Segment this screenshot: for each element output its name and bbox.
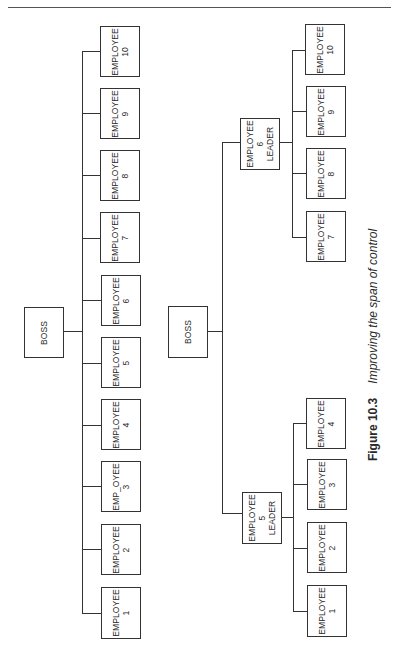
employee-label: EMPLOYEE: [110, 152, 120, 200]
employee-number: 2: [327, 524, 337, 572]
employee-label: EMPLOYEE: [316, 88, 326, 136]
employee-number: 4: [326, 400, 336, 448]
right-boss-label: BOSS: [183, 320, 193, 344]
employee-label: EMPLOYEE: [316, 400, 326, 448]
leader-number: 6: [255, 120, 265, 168]
leader-label: EMPLOYEE: [245, 120, 255, 168]
figure-number: Figure 10.3: [366, 398, 380, 461]
employee-label: EMPLOYEE: [110, 28, 120, 76]
leader-number: 5: [257, 494, 267, 542]
left-employee-2-box: EMPLOYEE2: [101, 524, 141, 575]
employee-number: 1: [327, 587, 337, 635]
left-branch-7: [82, 238, 101, 239]
employee-label: EMPLOYEE: [315, 26, 325, 74]
figure-title: Improving the span of control: [366, 229, 380, 384]
left-branch-2: [82, 549, 101, 550]
employee-number: 3: [327, 461, 337, 509]
employee-label: EMPLOYEE: [111, 401, 121, 449]
left-employee-5-box: EMPLOYEE5: [101, 337, 141, 388]
right-employee-7-box: EMPLOYEE7: [306, 211, 346, 262]
r-branch-2: [293, 548, 307, 549]
right-employee-8-box: EMPLOYEE8: [306, 148, 346, 199]
left-branch-10: [82, 51, 101, 52]
leader-label: EMPLOYEE: [247, 494, 257, 542]
left-employee-1-box: EMPLOYEE1: [101, 587, 141, 639]
left-employee-3-box: EMP_OYEE3: [101, 461, 141, 512]
employee-number: 6: [121, 277, 131, 325]
employee-number: 2: [121, 526, 131, 574]
employee-label: EMPLOYEE: [111, 589, 121, 637]
right-employee-1-box: EMPLOYEE1: [307, 585, 347, 637]
right-spine: [222, 142, 223, 514]
employee-number: 1: [121, 589, 131, 637]
employee-number: 10: [120, 28, 130, 76]
employee-number: 10: [325, 26, 335, 74]
left-employee-4-box: EMPLOYEE4: [101, 399, 141, 450]
left-boss-box: BOSS: [24, 307, 64, 358]
left-employee-9-box: EMPLOYEE9: [100, 88, 140, 139]
right-boss-box: BOSS: [168, 306, 208, 358]
r-branch-8: [292, 173, 307, 174]
employee-label: EMPLOYEE: [111, 277, 121, 325]
right-employee-2-box: EMPLOYEE2: [307, 522, 347, 573]
employee-label: EMPLOYEE: [317, 587, 327, 635]
leader-6-connector: [222, 142, 241, 143]
r-branch-7: [292, 237, 307, 238]
employee-number: 8: [326, 150, 336, 198]
employee-label: EMPLOYEE: [316, 150, 326, 198]
r-branch-3: [293, 484, 307, 485]
right-employee-9-box: EMPLOYEE9: [306, 86, 346, 137]
left-branch-6: [82, 300, 101, 301]
employee-number: 7: [326, 213, 336, 261]
leader-role: LEADER: [267, 494, 277, 542]
leader-6-box: EMPLOYEE6LEADER: [240, 118, 280, 170]
left-branch-5: [82, 363, 101, 364]
leader-5-connector: [222, 513, 243, 514]
header-rule: [8, 7, 391, 8]
left-branch-8: [82, 175, 101, 176]
right-boss-connector: [207, 331, 223, 332]
employee-number: 7: [120, 214, 130, 262]
leader-role: LEADER: [265, 120, 275, 168]
left-employee-6-box: EMPLOYEE6: [101, 275, 141, 326]
employee-number: 3: [121, 463, 131, 511]
employee-number: 8: [120, 152, 130, 200]
right-employee-4-box: EMPLOYEE4: [306, 398, 346, 449]
left-branch-9: [82, 113, 101, 114]
employee-label: EMPLOYEE: [110, 90, 120, 138]
leader-6-out: [279, 142, 293, 143]
employee-label: EMPLOYEE: [317, 461, 327, 509]
left-employee-8-box: EMPLOYEE8: [100, 150, 140, 201]
employee-label: EMPLOYEE: [316, 213, 326, 261]
employee-label: EMPLOYEE: [110, 214, 120, 262]
employee-number: 4: [121, 401, 131, 449]
left-branch-3: [82, 486, 101, 487]
left-employee-7-box: EMPLOYEE7: [100, 212, 140, 263]
left-spine: [82, 51, 83, 614]
employee-number: 5: [121, 339, 131, 387]
employee-label: EMPLOYEE: [111, 526, 121, 574]
employee-label: EMPLOYEE: [111, 339, 121, 387]
employee-label: EMP_OYEE: [111, 463, 121, 511]
leader-6-subspine: [292, 50, 293, 238]
left-boss-label: BOSS: [39, 320, 49, 344]
r-branch-9: [292, 111, 307, 112]
leader-5-box: EMPLOYEE5LEADER: [242, 492, 282, 544]
figure-caption: Figure 10.3Improving the span of control: [364, 240, 382, 450]
right-employee-3-box: EMPLOYEE3: [307, 459, 347, 510]
employee-label: EMPLOYEE: [317, 524, 327, 572]
r-branch-1: [293, 611, 307, 612]
left-branch-1: [82, 613, 101, 614]
right-employee-10-box: EMPLOYEE10: [305, 24, 345, 75]
left-employee-10-box: EMPLOYEE10: [100, 26, 140, 77]
employee-number: 9: [120, 90, 130, 138]
left-boss-connector: [63, 331, 83, 332]
r-branch-4: [293, 423, 307, 424]
employee-number: 9: [326, 88, 336, 136]
leader-5-subspine: [293, 423, 294, 612]
left-branch-4: [82, 425, 101, 426]
